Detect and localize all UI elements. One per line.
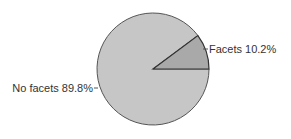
label-no-facets: No facets 89.8%	[12, 82, 93, 94]
pie-chart: Facets 10.2% No facets 89.8%	[0, 0, 291, 139]
label-facets: Facets 10.2%	[209, 43, 276, 55]
